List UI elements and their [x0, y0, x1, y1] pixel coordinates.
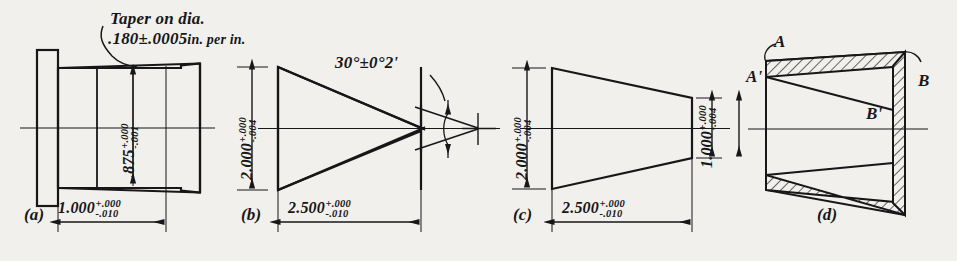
dim-c-length-value: 2.500	[562, 199, 599, 216]
dim-a-length-tol: +.000-.010	[96, 199, 121, 220]
dim-b-length: 2.500+.000-.010	[288, 199, 351, 220]
taper-note-value: .180±.0005	[108, 29, 187, 48]
dim-c-large-diameter: 2.000+.000-.004	[513, 117, 534, 180]
dim-c-length: 2.500+.000-.010	[562, 199, 625, 220]
dim-b-large-diameter-value: 2.000	[238, 143, 255, 180]
dim-a-length: 1.000+.000-.010	[58, 199, 121, 220]
dim-b-large-diameter-tol-minus: -.004	[248, 117, 259, 142]
point-b-prime-label: B'	[866, 105, 882, 122]
view-c-label: (c)	[513, 206, 532, 223]
dim-b-large-diameter: 2.000+.000-.004	[238, 117, 259, 180]
taper-note-line1: Taper on dia.	[110, 10, 205, 27]
dim-c-small-diameter-value: 1.000	[698, 131, 715, 168]
dim-a-diameter: .875+.000-.001	[120, 123, 141, 178]
point-a-label: A	[774, 33, 786, 50]
view-b-label: (b)	[241, 206, 261, 223]
dim-c-length-tol: +.000-.010	[600, 199, 625, 220]
taper-note-units: in. per in.	[187, 32, 245, 47]
dim-b-length-tol: +.000-.010	[326, 199, 351, 220]
point-b-label: B	[918, 72, 930, 89]
dim-b-large-diameter-tol: +.000-.004	[238, 117, 259, 142]
dim-b-length-value: 2.500	[288, 199, 325, 216]
dim-a-diameter-tol-minus: -.001	[130, 123, 141, 148]
view-a-label: (a)	[24, 206, 44, 223]
dim-a-diameter-tol: +.000-.001	[120, 123, 141, 148]
dim-a-diameter-value: .875	[120, 149, 137, 178]
dim-c-small-diameter: 1.000+.000-.004	[698, 105, 719, 168]
dim-b-length-tol-minus: -.010	[326, 209, 351, 220]
dim-c-large-diameter-tol: +.000-.004	[513, 117, 534, 142]
engineering-drawing-figure: Taper on dia. .180±.0005in. per in. .875…	[0, 0, 957, 261]
dim-b-included-angle: 30°±0°2'	[335, 54, 398, 71]
view-d-label: (d)	[817, 206, 837, 223]
dim-c-small-diameter-tol: +.000-.004	[698, 105, 719, 130]
taper-note-line2: .180±.0005in. per in.	[108, 30, 246, 47]
dim-c-large-diameter-value: 2.000	[513, 143, 530, 180]
dim-c-length-tol-minus: -.010	[600, 209, 625, 220]
dim-a-length-value: 1.000	[58, 199, 95, 216]
dim-c-small-diameter-tol-minus: -.004	[708, 105, 719, 130]
dim-a-length-tol-minus: -.010	[96, 209, 121, 220]
dim-c-large-diameter-tol-minus: -.004	[523, 117, 534, 142]
point-a-prime-label: A'	[746, 68, 762, 85]
